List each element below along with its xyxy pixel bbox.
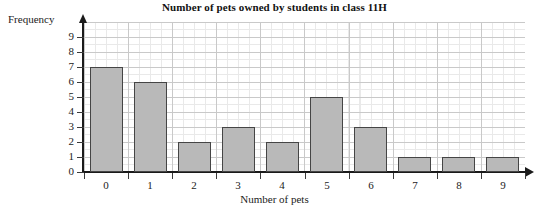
bar — [442, 157, 475, 172]
y-axis-tick-label: 7 — [58, 61, 74, 72]
x-axis-tick-label: 6 — [356, 179, 386, 192]
y-axis-line — [82, 22, 84, 173]
y-axis-tick — [77, 37, 84, 38]
y-axis-tick — [77, 97, 84, 98]
bar — [310, 97, 343, 172]
y-axis-tick-label: 5 — [58, 91, 74, 102]
x-axis-arrow-icon — [525, 167, 534, 177]
y-axis-tick — [77, 52, 84, 53]
y-axis-tick-label: 3 — [58, 121, 74, 132]
y-axis-tick-label: 2 — [58, 136, 74, 147]
x-axis-tick — [260, 173, 261, 179]
x-axis-tick-label: 1 — [135, 179, 165, 192]
y-axis-tick — [77, 157, 84, 158]
x-axis-tick — [349, 173, 350, 179]
y-axis-tick — [77, 82, 84, 83]
x-axis-tick — [84, 173, 85, 179]
x-axis-tick — [216, 173, 217, 179]
y-axis-arrow-icon — [79, 14, 87, 23]
x-axis-tick-label: 4 — [267, 179, 297, 192]
bar — [398, 157, 431, 172]
y-axis-tick-label: 6 — [58, 76, 74, 87]
bar — [90, 67, 123, 172]
x-axis-tick — [525, 173, 526, 179]
x-axis-tick-label: 3 — [223, 179, 253, 192]
bar — [486, 157, 519, 172]
bar — [222, 127, 255, 172]
y-axis-tick — [77, 67, 84, 68]
x-axis-tick — [172, 173, 173, 179]
y-axis-tick — [77, 172, 84, 173]
x-axis-tick — [393, 173, 394, 179]
x-axis-tick — [437, 173, 438, 179]
x-axis-tick-label: 9 — [488, 179, 518, 192]
y-axis-tick — [77, 127, 84, 128]
x-axis-tick-label: 8 — [444, 179, 474, 192]
x-axis-tick-label: 0 — [91, 179, 121, 192]
chart-figure: Number of pets owned by students in clas… — [0, 0, 549, 215]
y-axis-tick-label: 0 — [58, 166, 74, 177]
x-axis-title: Number of pets — [0, 193, 549, 205]
bar — [266, 142, 299, 172]
y-axis-tick — [77, 142, 84, 143]
y-axis-tick-label: 8 — [58, 46, 74, 57]
x-axis-tick — [481, 173, 482, 179]
bar — [134, 82, 167, 172]
x-axis-tick-label: 2 — [179, 179, 209, 192]
y-axis-tick-label: 1 — [58, 151, 74, 162]
y-axis-tick-label: 9 — [58, 31, 74, 42]
x-axis-tick-label: 7 — [400, 179, 430, 192]
x-axis-tick-label: 5 — [312, 179, 342, 192]
y-axis-tick — [77, 112, 84, 113]
chart-title: Number of pets owned by students in clas… — [0, 1, 549, 13]
x-axis-tick — [305, 173, 306, 179]
y-axis-tick-label: 4 — [58, 106, 74, 117]
x-axis-tick — [128, 173, 129, 179]
y-axis-title: Frequency — [8, 13, 54, 25]
bar — [178, 142, 211, 172]
bar — [354, 127, 387, 172]
